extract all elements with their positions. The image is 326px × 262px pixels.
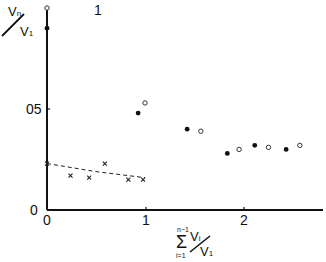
cross-marker (141, 178, 145, 182)
y-tick-label-0: 0 (30, 203, 38, 217)
cross-marker (126, 178, 130, 182)
y-tick-label-05: 05 (26, 102, 42, 116)
x-tick-label-2: 2 (240, 213, 248, 227)
open-circle-marker (199, 129, 203, 133)
open-circle-marker (266, 145, 270, 149)
axes (47, 6, 323, 210)
filled-circle-marker (252, 143, 257, 148)
x-axis-label: n−1 Σ i=1 Vi V1 (176, 226, 236, 260)
cross-marker (87, 176, 91, 180)
cross-marker (103, 162, 107, 166)
x-tick-label-1: 1 (142, 213, 150, 227)
sigma-symbol: Σ (176, 232, 187, 253)
y-label-numerator: Vn (8, 4, 21, 19)
y-axis-label: Vn V1 (2, 4, 38, 44)
open-circle-marker (237, 147, 241, 151)
y-label-denominator: V1 (20, 24, 33, 39)
x-tick-label-0: 0 (43, 213, 51, 227)
sigma-lower-limit: i=1 (176, 252, 186, 259)
filled-circle-marker (225, 151, 230, 156)
x-label-numerator: Vi (190, 229, 200, 244)
cross-marker (69, 174, 73, 178)
open-circle-marker (143, 101, 147, 105)
open-circle-marker (298, 143, 302, 147)
filled-circle-marker (284, 147, 289, 152)
fit-line (47, 164, 145, 178)
filled-circle-marker (45, 26, 50, 31)
y-tick-label-1: 1 (94, 3, 102, 17)
open-circle-marker (45, 6, 49, 10)
dashed-fit-line (47, 164, 145, 178)
filled-circle-marker (136, 111, 141, 116)
filled-circle-marker (185, 127, 190, 132)
data-points (45, 6, 302, 182)
x-label-denominator: V1 (200, 244, 213, 259)
